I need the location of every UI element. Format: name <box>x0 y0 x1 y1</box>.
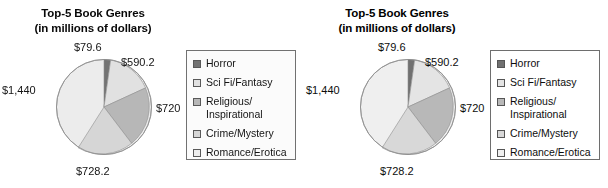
legend-label-crime-mystery: Crime/Mystery <box>206 127 274 140</box>
legend-item-horror: Horror <box>497 57 599 74</box>
pie-svg <box>55 58 153 156</box>
chart-title-line-1: Top-5 Book Genres <box>0 6 186 21</box>
legend-swatch-horror <box>193 60 201 68</box>
value-label-horror: $79.6 <box>378 41 406 53</box>
legend-label-religious-line-1: Religious/ <box>510 95 567 108</box>
legend-swatch-religious-inspirational <box>497 98 505 106</box>
legend-swatch-crime-mystery <box>193 130 201 138</box>
chart-legend: Horror Sci Fi/Fantasy Religious/ Inspira… <box>186 50 296 160</box>
chart-title: Top-5 Book Genres (in millions of dollar… <box>0 6 186 35</box>
legend-swatch-sci-fi-fantasy <box>193 79 201 87</box>
legend-swatch-sci-fi-fantasy <box>497 79 505 87</box>
pie-chart-figure: Top-5 Book Genres (in millions of dollar… <box>304 0 608 188</box>
legend-swatch-religious-inspirational <box>193 98 201 106</box>
legend-label-religious-line-1: Religious/ <box>206 95 263 108</box>
legend-label-horror: Horror <box>206 57 236 70</box>
chart-panel-left: Top-5 Book Genres (in millions of dollar… <box>0 0 304 188</box>
legend-item-romance-erotica: Romance/Erotica <box>193 146 295 163</box>
chart-panel-right: Top-5 Book Genres (in millions of dollar… <box>304 0 608 188</box>
value-label-horror: $79.6 <box>74 41 102 53</box>
legend-swatch-crime-mystery <box>497 130 505 138</box>
legend-swatch-romance-erotica <box>497 149 505 157</box>
legend-item-religious-inspirational: Religious/ Inspirational <box>193 95 295 125</box>
legend-label-religious-line-2: Inspirational <box>510 108 567 121</box>
legend-label-crime-mystery: Crime/Mystery <box>510 127 578 140</box>
chart-title: Top-5 Book Genres (in millions of dollar… <box>304 6 490 35</box>
value-label-romance: $1,440 <box>2 84 36 96</box>
legend-label-sci-fi-fantasy: Sci Fi/Fantasy <box>510 76 577 89</box>
legend-item-romance-erotica: Romance/Erotica <box>497 146 599 163</box>
chart-title-line-2: (in millions of dollars) <box>0 21 186 36</box>
chart-legend: Horror Sci Fi/Fantasy Religious/ Inspira… <box>490 50 600 160</box>
legend-item-horror: Horror <box>193 57 295 74</box>
value-label-sci-fi: $590.2 <box>121 56 155 68</box>
legend-item-crime-mystery: Crime/Mystery <box>497 127 599 144</box>
legend-item-sci-fi-fantasy: Sci Fi/Fantasy <box>193 76 295 93</box>
value-label-crime: $728.2 <box>380 165 414 177</box>
pie-graphic <box>359 58 457 156</box>
legend-item-crime-mystery: Crime/Mystery <box>193 127 295 144</box>
value-label-religious: $720 <box>156 102 180 114</box>
legend-label-sci-fi-fantasy: Sci Fi/Fantasy <box>206 76 273 89</box>
value-label-romance: $1,440 <box>306 84 340 96</box>
legend-label-horror: Horror <box>510 57 540 70</box>
legend-label-romance-erotica: Romance/Erotica <box>510 146 591 159</box>
legend-swatch-horror <box>497 60 505 68</box>
pie-chart-figure: Top-5 Book Genres (in millions of dollar… <box>0 0 304 188</box>
legend-label-religious-inspirational: Religious/ Inspirational <box>510 95 567 121</box>
value-label-sci-fi: $590.2 <box>425 56 459 68</box>
legend-swatch-romance-erotica <box>193 149 201 157</box>
figure-page: Top-5 Book Genres (in millions of dollar… <box>0 0 608 188</box>
legend-label-religious-inspirational: Religious/ Inspirational <box>206 95 263 121</box>
legend-item-sci-fi-fantasy: Sci Fi/Fantasy <box>497 76 599 93</box>
chart-title-line-1: Top-5 Book Genres <box>304 6 490 21</box>
chart-title-line-2: (in millions of dollars) <box>304 21 490 36</box>
value-label-crime: $728.2 <box>76 165 110 177</box>
legend-label-religious-line-2: Inspirational <box>206 108 263 121</box>
pie-graphic <box>55 58 153 156</box>
pie-svg <box>359 58 457 156</box>
legend-item-religious-inspirational: Religious/ Inspirational <box>497 95 599 125</box>
value-label-religious: $720 <box>460 102 484 114</box>
legend-label-romance-erotica: Romance/Erotica <box>206 146 287 159</box>
